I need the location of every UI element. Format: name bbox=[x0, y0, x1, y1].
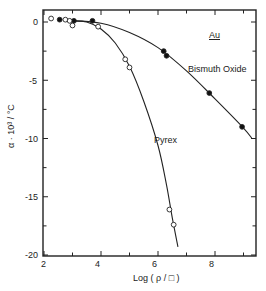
annotation-au: Au bbox=[209, 30, 220, 40]
plot-frame bbox=[43, 10, 256, 256]
y-tick-label-m15: -15 bbox=[25, 192, 38, 202]
x-axis-title: Log ( ρ / □ ) bbox=[133, 273, 180, 283]
x-tick-label-6: 6 bbox=[152, 259, 157, 269]
data-point-filled bbox=[164, 53, 169, 58]
x-tick-label-2: 2 bbox=[41, 259, 46, 269]
data-point-filled bbox=[161, 49, 166, 54]
x-tick-label-8: 8 bbox=[209, 259, 214, 269]
data-point-open bbox=[67, 18, 72, 23]
y-tick-label-0: 0 bbox=[33, 17, 38, 27]
y-tick-label-m10: -10 bbox=[25, 134, 38, 144]
y-tick-label-m5: -5 bbox=[29, 76, 37, 86]
annotation-pyrex: Pyrex bbox=[154, 135, 177, 145]
data-point-filled bbox=[207, 91, 212, 96]
data-point-open bbox=[96, 24, 101, 29]
x-tick-label-4: 4 bbox=[95, 259, 100, 269]
data-point-open bbox=[171, 222, 176, 227]
curve-pyrex bbox=[73, 21, 178, 247]
data-point-filled bbox=[240, 124, 245, 129]
data-point-filled bbox=[90, 18, 95, 23]
chart-plot bbox=[0, 0, 266, 291]
curve-bismuth-oxide bbox=[73, 21, 253, 139]
y-tick-label-m20: -20 bbox=[25, 250, 38, 260]
annotation-bismuth-oxide: Bismuth Oxide bbox=[188, 64, 247, 74]
data-point-open bbox=[123, 57, 128, 62]
data-point-open bbox=[49, 16, 54, 21]
data-point-open bbox=[167, 207, 172, 212]
data-point-filled bbox=[57, 17, 62, 22]
y-axis-title: α · 10³ / °C bbox=[6, 104, 16, 148]
data-point-open bbox=[70, 23, 75, 28]
data-point-open bbox=[127, 65, 132, 70]
